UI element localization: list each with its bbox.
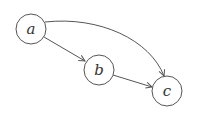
node-label-a: a	[27, 20, 36, 38]
node-b: b	[84, 55, 114, 85]
graph-canvas: a b c	[0, 0, 197, 118]
edge-b-c	[113, 75, 152, 87]
edge-a-b	[44, 37, 85, 61]
node-c: c	[152, 76, 182, 106]
node-label-b: b	[94, 61, 104, 79]
node-label-c: c	[163, 82, 172, 100]
node-a: a	[16, 14, 46, 44]
